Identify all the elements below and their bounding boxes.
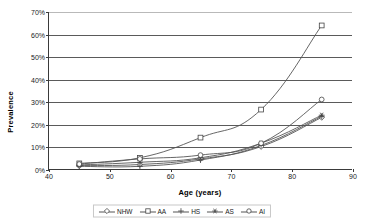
y-tick-label: 0% xyxy=(35,167,45,174)
y-tick-label: 50% xyxy=(31,54,45,61)
legend-item-hs[interactable]: HS xyxy=(173,208,200,215)
x-axis-title: Age (years) xyxy=(178,188,221,197)
y-tick-label: 30% xyxy=(31,99,45,106)
x-tick-label: 50 xyxy=(106,173,114,180)
y-tick-label: 40% xyxy=(31,76,45,83)
legend-item-as[interactable]: AS xyxy=(207,208,234,215)
y-tick-label: 10% xyxy=(31,144,45,151)
y-tick-label: 20% xyxy=(31,121,45,128)
legend-marker-square-icon xyxy=(140,208,156,215)
chart-root: Prevalence Age (years) 0%10%20%30%40%50%… xyxy=(0,0,365,224)
data-point-square xyxy=(319,23,324,28)
x-tick-mark xyxy=(292,169,293,172)
data-point-square xyxy=(259,107,264,112)
legend-item-aa[interactable]: AA xyxy=(140,208,167,215)
data-point-circle xyxy=(247,209,251,213)
y-tick-label: 60% xyxy=(31,31,45,38)
data-point-circle xyxy=(77,162,82,167)
data-point-square xyxy=(145,209,149,213)
x-tick-label: 90 xyxy=(349,173,357,180)
legend-label: AI xyxy=(259,208,265,215)
legend-marker-plus-icon xyxy=(173,208,189,215)
legend-label: AA xyxy=(158,208,167,215)
y-tick-label: 70% xyxy=(31,9,45,16)
legend-key-circle-icon xyxy=(241,208,257,215)
chart-legend: NHWAAHSASAI xyxy=(93,205,271,218)
legend-key-plus-icon xyxy=(173,208,189,215)
legend-key-square-icon xyxy=(140,208,156,215)
x-tick-label: 40 xyxy=(45,173,53,180)
x-tick-mark xyxy=(110,169,111,172)
legend-item-ai[interactable]: AI xyxy=(241,208,265,215)
data-point-diamond xyxy=(104,208,109,213)
x-tick-label: 60 xyxy=(167,173,175,180)
legend-label: HS xyxy=(191,208,200,215)
x-tick-mark xyxy=(49,169,50,172)
data-point-circle xyxy=(319,97,324,102)
series-layer xyxy=(49,12,352,169)
y-axis-title: Prevalence xyxy=(6,91,15,133)
data-point-circle xyxy=(198,153,203,158)
plot-area: 0%10%20%30%40%50%60%70% 405060708090 xyxy=(48,12,352,170)
x-tick-mark xyxy=(171,169,172,172)
x-tick-mark xyxy=(353,169,354,172)
series-ai xyxy=(77,97,324,166)
legend-marker-diamond-icon xyxy=(99,208,115,215)
series-aa xyxy=(77,23,324,166)
legend-key-diamond-icon xyxy=(99,208,115,215)
legend-label: NHW xyxy=(117,208,133,215)
legend-marker-star-icon xyxy=(207,208,223,215)
legend-key-star-icon xyxy=(207,208,223,215)
data-point-square xyxy=(198,135,203,140)
x-tick-label: 80 xyxy=(288,173,296,180)
data-point-circle xyxy=(259,141,264,146)
series-line-aa xyxy=(79,25,321,163)
legend-label: AS xyxy=(225,208,234,215)
data-point-star xyxy=(213,209,218,214)
legend-item-nhw[interactable]: NHW xyxy=(99,208,133,215)
x-tick-mark xyxy=(231,169,232,172)
x-tick-label: 70 xyxy=(227,173,235,180)
legend-marker-circle-icon xyxy=(241,208,257,215)
data-point-plus xyxy=(178,208,184,214)
data-point-circle xyxy=(138,157,143,162)
